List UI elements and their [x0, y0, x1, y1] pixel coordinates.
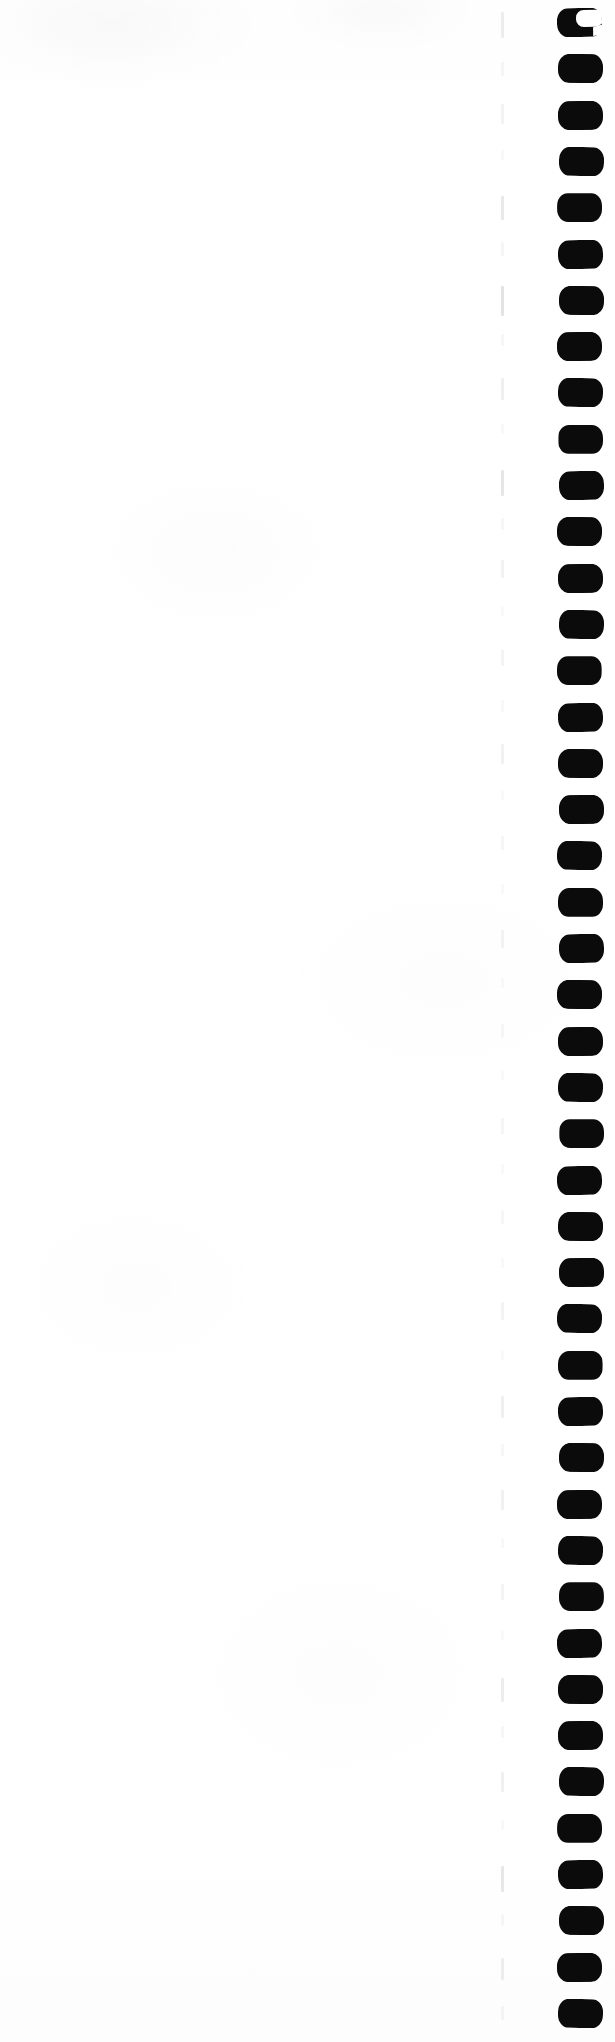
rule-dash	[501, 1164, 504, 1174]
rule-dash	[501, 1490, 504, 1510]
binding-mark	[557, 1489, 602, 1518]
dashed-vertical-rule	[501, 0, 504, 2042]
binding-mark	[559, 1119, 604, 1148]
binding-mark	[559, 1258, 604, 1287]
rule-dash	[501, 1678, 504, 1702]
binding-mark	[557, 1675, 602, 1704]
rule-dash	[501, 790, 504, 800]
rule-dash	[501, 242, 504, 256]
binding-mark	[557, 702, 602, 732]
rule-dash	[501, 518, 504, 530]
binding-mark-column	[558, 0, 603, 2042]
rule-dash	[501, 1538, 504, 1548]
rule-dash	[501, 1258, 504, 1268]
rule-dash	[501, 744, 504, 764]
rule-dash	[501, 1024, 504, 1038]
binding-mark	[558, 563, 603, 592]
binding-mark	[559, 471, 604, 501]
rule-dash	[501, 1772, 504, 1792]
binding-mark	[558, 1073, 603, 1103]
rule-dash	[501, 836, 504, 850]
rule-dash	[501, 1914, 504, 1926]
binding-mark	[557, 332, 602, 361]
binding-mark	[558, 239, 603, 269]
binding-mark	[556, 1628, 601, 1658]
rule-dash	[501, 1866, 504, 1892]
rule-dash	[501, 1958, 504, 1980]
rule-dash	[501, 1070, 504, 1080]
binding-mark	[558, 1860, 603, 1890]
rule-dash	[501, 196, 504, 220]
rule-dash	[501, 650, 504, 666]
binding-mark	[558, 100, 603, 129]
rule-dash	[501, 1584, 504, 1600]
binding-mark	[557, 1165, 602, 1195]
rule-dash	[501, 2006, 504, 2020]
binding-mark	[559, 1582, 604, 1611]
rule-dash	[501, 884, 504, 894]
rule-dash	[501, 1444, 504, 1456]
binding-mark	[557, 980, 602, 1009]
binding-mark	[559, 1443, 604, 1472]
binding-mark	[557, 193, 602, 222]
rule-dash	[501, 62, 504, 76]
rule-dash	[501, 286, 504, 316]
rule-dash	[501, 1210, 504, 1224]
binding-mark	[558, 888, 603, 917]
rule-dash	[501, 1350, 504, 1360]
binding-mark	[556, 1304, 601, 1334]
binding-mark	[557, 378, 602, 408]
binding-mark	[557, 1814, 602, 1843]
binding-mark	[557, 54, 602, 83]
binding-mark	[557, 1026, 602, 1055]
binding-mark	[557, 656, 602, 685]
rule-dash	[501, 1630, 504, 1640]
rule-dash	[501, 1118, 504, 1134]
binding-mark	[557, 517, 602, 546]
binding-mark	[558, 749, 603, 778]
binding-mark	[559, 286, 604, 315]
binding-mark	[558, 1536, 603, 1566]
binding-mark	[557, 1952, 602, 1981]
rule-dash	[501, 378, 504, 400]
rule-dash	[501, 150, 504, 160]
binding-mark	[558, 1212, 603, 1241]
paper-texture	[0, 0, 615, 2042]
binding-mark	[558, 425, 603, 454]
rule-dash	[501, 12, 504, 38]
rule-dash	[501, 606, 504, 616]
binding-mark	[558, 1721, 603, 1750]
binding-mark	[557, 841, 602, 871]
rule-dash	[501, 978, 504, 988]
rule-dash	[501, 104, 504, 124]
binding-mark-open-c	[556, 8, 601, 38]
binding-mark	[559, 795, 604, 824]
rule-dash	[501, 1302, 504, 1320]
rule-dash	[501, 560, 504, 578]
binding-mark	[559, 147, 604, 177]
rule-dash	[501, 424, 504, 434]
binding-mark	[559, 1906, 604, 1935]
rule-dash	[501, 700, 504, 712]
rule-dash	[501, 930, 504, 948]
rule-dash	[501, 1726, 504, 1738]
scanned-page	[0, 0, 615, 2042]
binding-mark	[559, 1767, 604, 1797]
rule-dash	[501, 1396, 504, 1418]
binding-mark	[558, 1351, 603, 1380]
binding-mark	[559, 934, 604, 964]
binding-mark	[558, 1397, 603, 1427]
rule-dash	[501, 470, 504, 496]
binding-mark	[559, 610, 604, 640]
binding-mark	[557, 1999, 602, 2029]
rule-dash	[501, 334, 504, 346]
rule-dash	[501, 1820, 504, 1830]
